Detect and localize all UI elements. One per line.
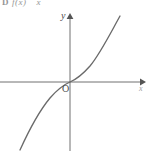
- x-axis-label: x: [139, 84, 143, 93]
- plot-canvas: [0, 0, 147, 151]
- x-axis-group: [0, 79, 146, 86]
- y-axis-label: y: [61, 10, 65, 21]
- y-axis-arrow-icon: [67, 13, 74, 19]
- cubic-function-figure: Df(x)x y x O: [0, 0, 147, 151]
- origin-label: O: [62, 83, 69, 94]
